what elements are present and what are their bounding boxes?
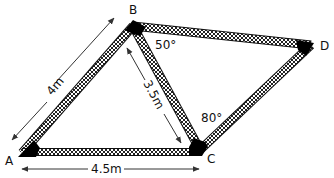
dimension-bc-arrow [127, 48, 145, 80]
angle-label-b: 50° [155, 38, 176, 52]
angle-label-c: 80° [201, 111, 222, 125]
length-label-ac: 4.5m [91, 162, 122, 176]
vertex-label-b: B [129, 3, 137, 17]
dimension-ab-arrow [56, 18, 114, 82]
length-label-ab: 4m [44, 74, 67, 98]
vertex-label-a: A [5, 154, 14, 168]
vertex-label-d: D [320, 39, 329, 53]
vertex-label-c: C [207, 152, 215, 166]
frame-diagram: A B C D 4m 3.5m 4.5m 50° 80° [0, 0, 334, 178]
